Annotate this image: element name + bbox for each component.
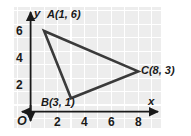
x-tick-label-4: 4	[81, 116, 88, 128]
origin-label: O	[17, 115, 27, 128]
point-label-c: C(8, 3)	[141, 65, 175, 76]
y-tick-label-6: 6	[16, 25, 23, 37]
point-label-a: A(1, 6)	[47, 9, 81, 20]
x-tick-label-8: 8	[135, 116, 142, 128]
coordinate-plane-figure: 6 4 2 2 4 6 8 O y x A(1, 6) B(3, 1) C(8,…	[0, 0, 191, 136]
triangle-abc	[44, 31, 138, 98]
x-axis-name: x	[148, 96, 154, 108]
x-tick-label-6: 6	[108, 116, 115, 128]
x-tick-label-2: 2	[54, 116, 61, 128]
y-tick-label-4: 4	[16, 52, 23, 64]
y-tick-label-2: 2	[16, 79, 23, 91]
y-axis-name: y	[34, 8, 40, 20]
point-label-b: B(3, 1)	[41, 97, 75, 108]
